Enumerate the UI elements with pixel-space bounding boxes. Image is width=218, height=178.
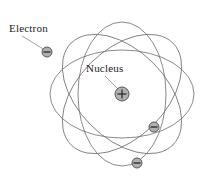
electron-label: Electron bbox=[9, 22, 48, 34]
electron-particle-3 bbox=[132, 158, 142, 168]
atom-diagram-canvas: Electron Nucleus bbox=[0, 0, 218, 178]
nucleus-particle bbox=[115, 87, 129, 101]
electron-particle-2 bbox=[149, 122, 159, 132]
electron-particle-1 bbox=[42, 47, 52, 57]
nucleus-leader-line bbox=[105, 76, 118, 89]
nucleus-label: Nucleus bbox=[86, 62, 123, 74]
electron-leader-line bbox=[22, 36, 45, 50]
